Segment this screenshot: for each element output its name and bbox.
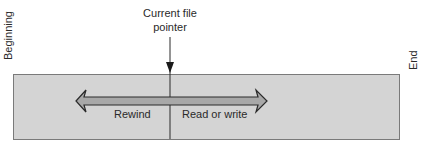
arrow-down-icon: [166, 62, 174, 73]
rewind-label: Rewind: [114, 108, 151, 120]
pointer-label-line1: Current file: [120, 6, 220, 20]
current-file-pointer-label: Current file pointer: [120, 6, 220, 34]
file-pointer-diagram: Beginning End Current file pointer Rewin…: [0, 0, 424, 149]
beginning-label: Beginning: [2, 11, 14, 60]
pointer-label-line2: pointer: [120, 20, 220, 34]
file-body: [14, 75, 400, 140]
end-label: End: [407, 50, 419, 70]
read-or-write-label: Read or write: [182, 108, 247, 120]
